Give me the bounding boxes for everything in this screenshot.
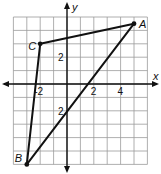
vertex-B-label: B [15,152,22,164]
vertex-A-label: A [138,18,146,30]
y-axis-up-arrow-icon [64,2,70,9]
y-axis-down-arrow-icon [64,166,70,173]
y-axis-label: y [71,1,79,13]
vertex-B-dot [24,162,29,167]
vertex-C-dot [38,41,43,46]
tick-label-x: 4 [118,86,124,97]
tick-label-y: 2 [58,52,64,63]
tick-label-x: 2 [91,86,97,97]
coordinate-plane-figure: x y -22422 ABC [0,0,161,174]
x-axis-label: x [152,70,159,82]
coordinate-plane: x y -22422 ABC [0,0,161,174]
segment-BC [27,44,40,165]
x-axis-left-arrow-icon [2,81,9,87]
vertex-C-label: C [28,40,36,52]
vertex-A-dot [132,21,137,26]
